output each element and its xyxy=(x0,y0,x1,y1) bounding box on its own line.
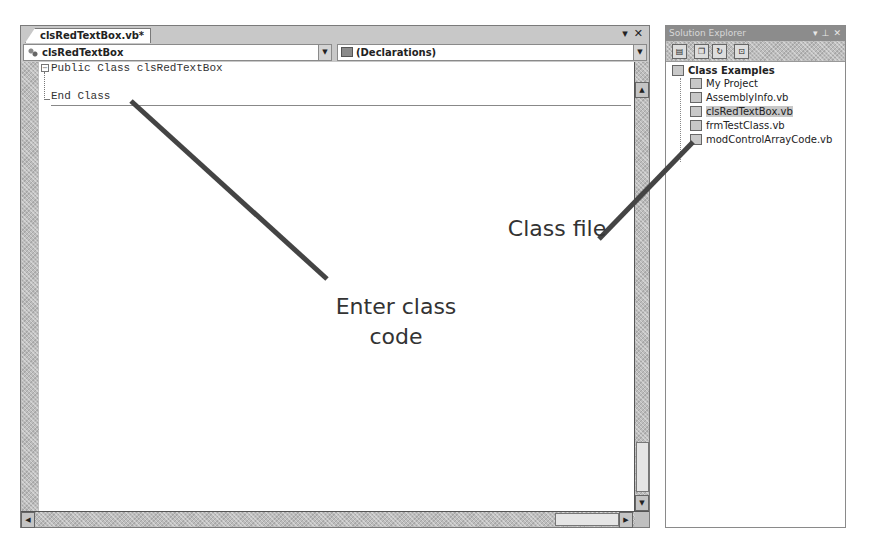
class-icon xyxy=(27,47,39,57)
scroll-left-icon[interactable]: ◀ xyxy=(21,512,35,528)
properties-icon[interactable]: ▤ xyxy=(672,44,687,59)
method-name-dropdown[interactable]: (Declarations) ▼ xyxy=(337,44,647,61)
navigation-bar: clsRedTextBox ▼ (Declarations) ▼ xyxy=(21,44,649,61)
vertical-scrollbar[interactable]: ▲ ▼ xyxy=(634,62,649,511)
close-document-icon[interactable]: ✕ xyxy=(634,27,643,40)
tree-node-label: Class Examples xyxy=(688,65,775,76)
tree-node-frmtestclass[interactable]: frmTestClass.vb xyxy=(690,119,785,133)
scrollbar-corner xyxy=(635,512,649,527)
tree-guide-line xyxy=(680,78,681,162)
show-all-files-icon[interactable]: ❐ xyxy=(694,44,709,59)
code-line-1: Public Class clsRedTextBox xyxy=(51,62,223,74)
form-file-icon xyxy=(690,120,702,131)
vb-file-icon xyxy=(690,134,702,145)
tree-node-clsredtextbox[interactable]: clsRedTextBox.vb xyxy=(690,105,793,119)
tree-node-modcontrolarraycode[interactable]: modControlArrayCode.vb xyxy=(690,133,832,147)
scroll-right-icon[interactable]: ▶ xyxy=(619,512,633,528)
chevron-down-icon[interactable]: ▼ xyxy=(633,45,646,60)
solution-explorer-panel: Solution Explorer ▾⊥✕ ▤ ❐ ↻ ⊡ Class Exam… xyxy=(665,25,846,528)
method-name-selected: (Declarations) xyxy=(356,47,436,58)
close-panel-icon[interactable]: ✕ xyxy=(833,28,841,38)
tree-node-label: frmTestClass.vb xyxy=(706,120,785,131)
collapse-region-icon[interactable]: − xyxy=(41,64,49,72)
auto-hide-pin-icon[interactable]: ⊥ xyxy=(822,28,830,38)
scroll-down-icon[interactable]: ▼ xyxy=(635,495,649,511)
tree-node-my-project[interactable]: My Project xyxy=(690,77,758,91)
vb-file-icon xyxy=(690,106,702,117)
code-line-3: End Class xyxy=(51,90,110,102)
indicator-margin xyxy=(21,62,39,511)
refresh-icon[interactable]: ↻ xyxy=(712,44,727,59)
window-position-dropdown-icon[interactable]: ▾ xyxy=(813,28,818,38)
scroll-up-icon[interactable]: ▲ xyxy=(635,82,649,98)
callout-class-file: Class file xyxy=(492,214,622,244)
project-icon xyxy=(672,65,684,76)
callout-text-line-1: Enter class xyxy=(316,292,476,322)
horizontal-scroll-thumb[interactable] xyxy=(555,513,619,526)
callout-enter-class-code: Enter class code xyxy=(316,292,476,352)
class-name-dropdown[interactable]: clsRedTextBox ▼ xyxy=(23,44,332,61)
vertical-scroll-thumb[interactable] xyxy=(636,442,649,492)
tree-node-label: My Project xyxy=(706,78,758,89)
callout-text-line-2: code xyxy=(316,322,476,352)
tree-node-project[interactable]: Class Examples xyxy=(672,64,775,78)
document-tab-strip: clsRedTextBox.vb* ▾✕ xyxy=(21,26,649,42)
tree-node-label: clsRedTextBox.vb xyxy=(706,106,793,117)
code-text-area[interactable]: − Public Class clsRedTextBox End Class xyxy=(39,62,635,511)
tab-clsRedTextBox[interactable]: clsRedTextBox.vb* xyxy=(25,28,151,43)
chevron-down-icon[interactable]: ▼ xyxy=(318,45,331,60)
outline-guide xyxy=(44,72,50,100)
horizontal-scrollbar[interactable]: ◀ ▶ xyxy=(21,511,649,527)
declarations-icon xyxy=(341,47,353,57)
class-name-selected: clsRedTextBox xyxy=(42,47,123,58)
panel-title: Solution Explorer xyxy=(669,28,746,38)
procedure-separator xyxy=(51,105,631,106)
solution-explorer-title-bar: Solution Explorer ▾⊥✕ xyxy=(666,26,845,41)
tree-node-label: modControlArrayCode.vb xyxy=(706,134,832,145)
tree-node-assemblyinfo[interactable]: AssemblyInfo.vb xyxy=(690,91,788,105)
active-files-dropdown-icon[interactable]: ▾ xyxy=(622,27,628,40)
panel-controls: ▾⊥✕ xyxy=(809,26,841,41)
my-project-icon xyxy=(690,78,702,89)
vb-file-icon xyxy=(690,92,702,103)
code-editor-window: clsRedTextBox.vb* ▾✕ clsRedTextBox ▼ (De… xyxy=(20,25,650,528)
view-code-icon[interactable]: ⊡ xyxy=(734,44,749,59)
solution-explorer-toolbar: ▤ ❐ ↻ ⊡ xyxy=(666,41,845,62)
tab-controls: ▾✕ xyxy=(616,27,643,40)
tree-node-label: AssemblyInfo.vb xyxy=(706,92,788,103)
